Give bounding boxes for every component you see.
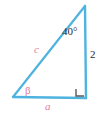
apex-angle-label: 40° [62,26,77,37]
base-side-label: a [45,101,51,112]
right-angle-marker-icon [76,89,84,96]
triangle-outline [13,6,86,98]
base-side-line [13,97,86,98]
triangle-drawing [0,0,104,120]
hypotenuse-line [13,6,85,97]
vertical-side-line [85,6,86,98]
vertical-side-label: 2 [90,49,96,60]
beta-angle-label: β [25,85,31,96]
hypotenuse-label: c [34,44,39,55]
triangle-figure: 40° 2 c a β [0,0,104,120]
